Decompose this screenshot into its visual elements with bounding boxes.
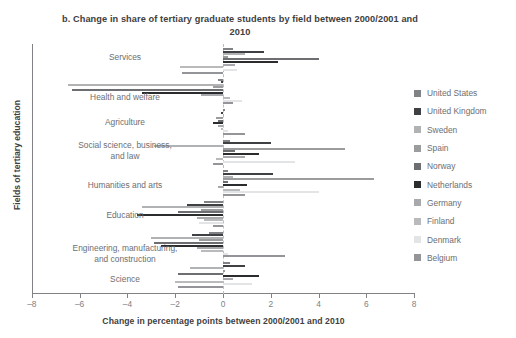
category-label: Science	[30, 274, 220, 285]
x-tick-label: 2	[256, 299, 286, 309]
legend-label: United States	[427, 88, 477, 98]
bar	[223, 142, 271, 144]
bar	[223, 69, 237, 71]
bar	[223, 114, 224, 116]
x-tick	[319, 294, 320, 298]
bar	[223, 102, 233, 104]
legend-label: United Kingdom	[427, 106, 487, 116]
legend-swatch-icon	[414, 145, 421, 152]
category-label: Agriculture	[30, 117, 220, 128]
y-axis-title: Fields of tertiary education	[12, 90, 22, 220]
x-tick-label: 4	[304, 299, 334, 309]
legend-swatch-icon	[414, 236, 421, 243]
bar	[223, 270, 225, 272]
bar	[223, 109, 225, 111]
legend-item[interactable]: Spain	[414, 139, 487, 157]
legend-label: Germany	[427, 198, 461, 208]
x-tick-label: –4	[112, 299, 142, 309]
legend-swatch-icon	[414, 218, 421, 225]
bar	[223, 133, 245, 135]
bar	[68, 84, 223, 86]
legend-label: Spain	[427, 143, 448, 153]
bar	[223, 184, 247, 186]
legend-item[interactable]: United States	[414, 84, 487, 102]
legend-label: Denmark	[427, 235, 461, 245]
legend-label: Belgium	[427, 253, 457, 263]
legend: United StatesUnited KingdomSwedenSpainNo…	[414, 84, 487, 267]
bar	[223, 278, 233, 280]
x-tick-label: 8	[399, 299, 429, 309]
category-label: Humanities and arts	[30, 180, 220, 191]
category-label: Health and welfare	[30, 92, 220, 103]
bar	[213, 225, 223, 227]
bar	[180, 66, 223, 68]
bar	[178, 286, 223, 288]
legend-label: Netherlands	[427, 180, 472, 190]
x-tick-label: 6	[351, 299, 381, 309]
bar	[223, 255, 285, 257]
x-axis-title: Change in percentage points between 2000…	[32, 316, 415, 326]
legend-item[interactable]: Germany	[414, 194, 487, 212]
category-label: Social science, business, and law	[30, 140, 220, 161]
legend-swatch-icon	[414, 181, 421, 188]
legend-item[interactable]: Finland	[414, 212, 487, 230]
x-tick	[127, 294, 128, 298]
category-label: Services	[30, 52, 220, 63]
category-label: Education	[30, 210, 220, 221]
legend-item[interactable]: Belgium	[414, 249, 487, 267]
legend-swatch-icon	[414, 199, 421, 206]
bar	[223, 194, 245, 196]
bar	[223, 64, 235, 66]
x-tick	[175, 294, 176, 298]
bar	[223, 161, 295, 163]
x-tick-label: 0	[208, 299, 238, 309]
bar	[223, 265, 245, 267]
legend-swatch-icon	[414, 108, 421, 115]
x-tick	[80, 294, 81, 298]
legend-label: Sweden	[427, 125, 457, 135]
legend-swatch-icon	[414, 163, 421, 170]
legend-item[interactable]: Denmark	[414, 230, 487, 248]
legend-item[interactable]: United Kingdom	[414, 102, 487, 120]
bar	[223, 178, 374, 180]
chart-title: b. Change in share of tertiary graduate …	[60, 13, 420, 39]
x-tick	[223, 294, 224, 298]
chart-root: b. Change in share of tertiary graduate …	[0, 0, 516, 338]
legend-swatch-icon	[414, 126, 421, 133]
legend-item[interactable]: Sweden	[414, 121, 487, 139]
bar	[223, 283, 252, 285]
bar	[182, 72, 223, 74]
category-label: Engineering, manufacturing, and construc…	[30, 243, 220, 264]
legend-item[interactable]: Norway	[414, 157, 487, 175]
x-tick	[414, 294, 415, 298]
bar	[223, 156, 245, 158]
legend-label: Finland	[427, 216, 454, 226]
legend-item[interactable]: Netherlands	[414, 175, 487, 193]
x-tick	[271, 294, 272, 298]
x-tick-label: –2	[160, 299, 190, 309]
x-tick-label: –6	[65, 299, 95, 309]
x-tick	[32, 294, 33, 298]
x-tick	[366, 294, 367, 298]
legend-swatch-icon	[414, 254, 421, 261]
x-tick-label: –8	[17, 299, 47, 309]
bar	[190, 267, 223, 269]
bar	[213, 163, 223, 165]
legend-label: Norway	[427, 161, 455, 171]
legend-swatch-icon	[414, 90, 421, 97]
bar	[223, 148, 345, 150]
